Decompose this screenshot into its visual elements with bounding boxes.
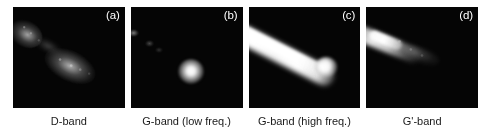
panel-image-a: (a): [13, 7, 125, 108]
panel-letter-c: (c): [342, 9, 355, 22]
signal-bright-spot-b: [178, 59, 204, 84]
panel-image-d: (d): [366, 7, 478, 108]
panel-letter-b: (b): [224, 9, 238, 22]
panel-group-d: (d) G'-band: [366, 7, 478, 137]
signal-speck-two-b: [145, 40, 154, 47]
panel-caption-b: G-band (low freq.): [131, 116, 243, 127]
signal-speck-three-b: [155, 47, 163, 53]
panel-caption-a: D-band: [13, 116, 125, 127]
panel-caption-c: G-band (high freq.): [249, 116, 361, 127]
panel-image-b: (b): [131, 7, 243, 108]
raman-band-map-figure: (a) D-band (b) G-band (low freq.) (c): [0, 0, 484, 137]
signal-grain-texture-a: [13, 7, 125, 108]
signal-band-outer-c: [249, 22, 337, 89]
panel-group-b: (b) G-band (low freq.): [131, 7, 243, 137]
signal-grain-texture-d: [366, 7, 478, 108]
panel-row: (a) D-band (b) G-band (low freq.) (c): [13, 7, 478, 108]
panel-group-a: (a) D-band: [13, 7, 125, 137]
signal-band-tip-c: [315, 57, 337, 77]
panel-letter-d: (d): [459, 9, 473, 22]
panel-image-c: (c): [249, 7, 361, 108]
panel-group-c: (c) G-band (high freq.): [249, 7, 361, 137]
panel-caption-d: G'-band: [366, 116, 478, 127]
signal-speck-one-b: [131, 29, 139, 37]
panel-letter-a: (a): [106, 9, 120, 22]
signal-band-core-c: [249, 24, 329, 78]
